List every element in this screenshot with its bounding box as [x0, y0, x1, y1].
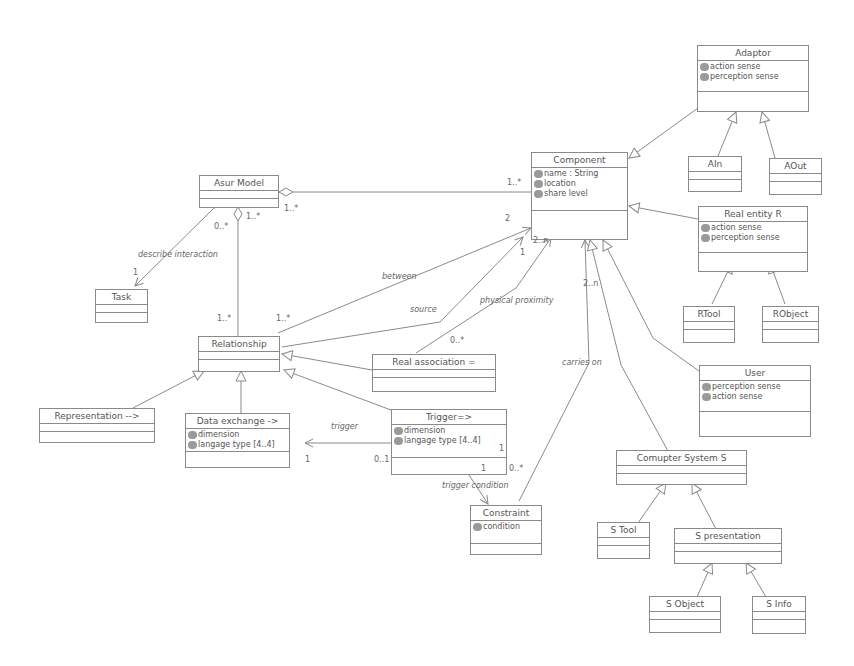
- operations-compartment: [199, 360, 279, 366]
- mult-dx-one: 1: [305, 455, 310, 464]
- attributes-compartment: [763, 322, 818, 330]
- class-name: Data exchange ->: [186, 414, 289, 429]
- class-s-info[interactable]: S Info: [752, 596, 806, 634]
- class-s-tool[interactable]: S Tool: [597, 522, 650, 559]
- attribute-icon: [700, 63, 709, 71]
- class-name: Representation -->: [40, 409, 154, 424]
- attribute-icon: [534, 180, 543, 188]
- attribute-icon: [394, 437, 403, 445]
- operations-compartment: [598, 546, 649, 552]
- attribute-icon: [534, 190, 543, 198]
- class-user[interactable]: User perception sense action sense: [699, 365, 811, 437]
- mult-comp-one: 1: [520, 248, 525, 257]
- class-name: S Object: [650, 597, 720, 612]
- class-real-association[interactable]: Real association =: [372, 354, 496, 392]
- class-ain[interactable]: AIn: [688, 156, 742, 192]
- class-name: User: [700, 366, 810, 381]
- attributes-compartment: [650, 612, 720, 620]
- operations-compartment: [675, 552, 781, 558]
- attributes-compartment: [96, 305, 147, 313]
- mult-rel-between: 1..*: [276, 314, 290, 323]
- class-name: Trigger=>: [392, 410, 506, 425]
- attribute-dimension: dimension: [188, 430, 289, 440]
- label-between: between: [382, 272, 417, 281]
- attribute-name: name : String: [534, 169, 627, 179]
- class-name: RTool: [684, 307, 734, 322]
- attribute-icon: [188, 441, 197, 449]
- mult-rel-top: 1..*: [217, 314, 231, 323]
- attribute-action-sense: action sense: [702, 392, 810, 402]
- class-real-entity-r[interactable]: Real entity R action sense perception se…: [698, 206, 808, 272]
- attribute-condition: condition: [473, 522, 541, 532]
- mult-trig-01: 0..1: [374, 455, 389, 464]
- class-asur-model[interactable]: Asur Model: [199, 175, 279, 208]
- label-physical-proximity: physical proximity: [480, 296, 553, 305]
- operations-compartment: [200, 199, 278, 205]
- attribute-perception-sense: perception sense: [702, 382, 810, 392]
- attributes-compartment: [684, 322, 734, 330]
- class-name: AOut: [770, 159, 821, 174]
- mult-asur-task: 0..*: [214, 222, 228, 231]
- operations-compartment: [700, 412, 810, 418]
- class-name: Asur Model: [200, 176, 278, 191]
- attributes-compartment: [199, 352, 279, 360]
- class-relationship[interactable]: Relationship: [198, 336, 280, 372]
- class-trigger[interactable]: Trigger=> dimension langage type [4..4]: [391, 409, 507, 475]
- attribute-icon: [702, 393, 711, 401]
- attribute-action-sense: action sense: [700, 62, 808, 72]
- class-aout[interactable]: AOut: [769, 158, 822, 195]
- operations-compartment: [392, 458, 506, 464]
- operations-compartment: [650, 620, 720, 626]
- attribute-icon: [700, 73, 709, 81]
- attributes-compartment: dimension langage type [4..4]: [186, 429, 289, 452]
- class-adaptor[interactable]: Adaptor action sense perception sense: [697, 45, 809, 112]
- class-name: Real entity R: [699, 207, 807, 222]
- attributes-compartment: [598, 538, 649, 546]
- attributes-compartment: [200, 191, 278, 199]
- mult-comp-two: 2: [505, 214, 510, 223]
- attribute-icon: [473, 523, 482, 531]
- attributes-compartment: [40, 424, 154, 432]
- class-robject[interactable]: RObject: [762, 306, 819, 343]
- attribute-icon: [701, 224, 710, 232]
- operations-compartment: [40, 432, 154, 438]
- class-constraint[interactable]: Constraint condition: [470, 505, 542, 555]
- attribute-icon: [188, 431, 197, 439]
- attribute-location: location: [534, 179, 627, 189]
- attributes-compartment: name : String location share level: [532, 168, 627, 211]
- operations-compartment: [617, 474, 746, 480]
- operations-compartment: [471, 544, 541, 550]
- operations-compartment: [532, 211, 627, 217]
- label-describe-interaction: describe interaction: [138, 250, 218, 259]
- attributes-compartment: dimension langage type [4..4]: [392, 425, 506, 458]
- class-task[interactable]: Task: [95, 289, 148, 323]
- operations-compartment: [186, 452, 289, 458]
- class-name: Real association =: [373, 355, 495, 370]
- mult-trig-0star: 0..*: [509, 464, 523, 473]
- attribute-icon: [702, 383, 711, 391]
- class-name: AIn: [689, 157, 741, 172]
- attribute-share-level: share level: [534, 189, 627, 199]
- operations-compartment: [373, 378, 495, 384]
- operations-compartment: [699, 253, 807, 259]
- class-data-exchange[interactable]: Data exchange -> dimension langage type …: [185, 413, 290, 468]
- class-s-object[interactable]: S Object: [649, 596, 721, 633]
- mult-trig-one-right: 1: [499, 444, 504, 453]
- class-name: S Tool: [598, 523, 649, 538]
- mult-trig-one-bottom: 1: [481, 464, 486, 473]
- attribute-langage-type: langage type [4..4]: [394, 436, 506, 446]
- class-component[interactable]: Component name : String location share l…: [531, 152, 628, 240]
- label-trigger: trigger: [331, 422, 358, 431]
- class-rtool[interactable]: RTool: [683, 306, 735, 343]
- class-s-presentation[interactable]: S presentation: [674, 528, 782, 564]
- class-representation[interactable]: Representation -->: [39, 408, 155, 443]
- attribute-langage-type: langage type [4..4]: [188, 440, 289, 450]
- class-name: Comupter System S: [617, 451, 746, 466]
- attributes-compartment: action sense perception sense: [698, 61, 808, 92]
- operations-compartment: [689, 180, 741, 186]
- class-name: Component: [532, 153, 627, 168]
- operations-compartment: [698, 92, 808, 98]
- class-computer-system-s[interactable]: Comupter System S: [616, 450, 747, 485]
- mult-task-one: 1: [133, 268, 138, 277]
- class-name: Adaptor: [698, 46, 808, 61]
